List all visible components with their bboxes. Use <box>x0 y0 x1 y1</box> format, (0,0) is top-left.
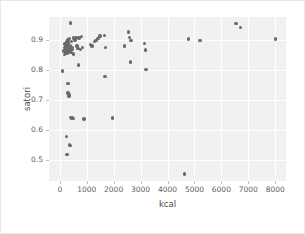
data-point <box>274 37 277 40</box>
gridline-horizontal-2 <box>49 100 286 101</box>
x-tick-label: 5000 <box>185 186 204 194</box>
x-tick-label: 0 <box>57 186 62 194</box>
data-point <box>127 30 130 33</box>
y-tick-label: 0.6 <box>31 126 43 134</box>
x-tick-label: 3000 <box>131 186 150 194</box>
data-point <box>144 48 147 51</box>
data-point <box>65 135 68 138</box>
data-point <box>103 34 106 37</box>
data-point <box>111 116 114 119</box>
data-point <box>71 48 74 51</box>
y-axis-label: satori <box>23 87 32 111</box>
gridline-horizontal-3 <box>49 70 286 71</box>
x-tick-mark-7 <box>248 181 249 184</box>
data-point <box>123 44 126 47</box>
plot-area <box>49 17 286 181</box>
y-tick-label: 0.9 <box>31 36 43 44</box>
x-tick-mark-4 <box>168 181 169 184</box>
x-axis-label: kcal <box>49 200 286 209</box>
x-tick-label: 2000 <box>104 186 123 194</box>
x-tick-label: 8000 <box>266 186 285 194</box>
x-tick-mark-8 <box>275 181 276 184</box>
x-tick-label: 7000 <box>239 186 258 194</box>
gridline-horizontal-0 <box>49 160 286 161</box>
data-point <box>104 46 107 49</box>
data-point <box>239 26 242 29</box>
data-point <box>143 42 146 45</box>
data-point <box>144 68 147 71</box>
x-tick-mark-3 <box>141 181 142 184</box>
data-point <box>67 94 70 97</box>
x-tick-label: 4000 <box>158 186 177 194</box>
x-tick-mark-6 <box>221 181 222 184</box>
data-point <box>103 75 106 78</box>
data-point <box>77 63 80 66</box>
gridline-horizontal-4 <box>49 40 286 41</box>
data-point <box>198 39 201 42</box>
data-point <box>69 21 72 24</box>
data-point <box>98 34 101 37</box>
scatter-plot-figure: 010002000300040005000600070008000 0.50.6… <box>0 0 305 234</box>
data-point <box>80 35 83 38</box>
x-tick-mark-5 <box>194 181 195 184</box>
y-tick-label: 0.5 <box>31 156 43 164</box>
data-point <box>81 46 84 49</box>
data-point <box>72 52 75 55</box>
x-tick-mark-0 <box>60 181 61 184</box>
y-tick-mark-4 <box>46 40 49 41</box>
x-tick-label: 1000 <box>77 186 96 194</box>
data-point <box>234 22 237 25</box>
plot-frame: 010002000300040005000600070008000 0.50.6… <box>49 17 286 181</box>
data-point <box>61 69 64 72</box>
x-tick-mark-1 <box>87 181 88 184</box>
data-point <box>129 60 132 63</box>
data-point <box>129 39 132 42</box>
data-point <box>65 153 68 156</box>
y-tick-label: 0.7 <box>31 96 43 104</box>
data-point <box>187 37 190 40</box>
data-point <box>90 44 93 47</box>
data-point <box>66 82 69 85</box>
x-tick-label: 6000 <box>212 186 231 194</box>
data-point <box>72 117 75 120</box>
data-point <box>183 172 186 175</box>
y-tick-mark-2 <box>46 100 49 101</box>
y-tick-label: 0.8 <box>31 66 43 74</box>
data-point <box>68 144 71 147</box>
data-point <box>82 117 85 120</box>
y-tick-mark-3 <box>46 70 49 71</box>
y-tick-mark-1 <box>46 130 49 131</box>
gridline-horizontal-1 <box>49 130 286 131</box>
x-tick-mark-2 <box>114 181 115 184</box>
y-tick-mark-0 <box>46 160 49 161</box>
